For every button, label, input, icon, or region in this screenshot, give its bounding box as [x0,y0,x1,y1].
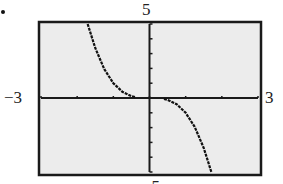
graph-window [0,0,283,184]
